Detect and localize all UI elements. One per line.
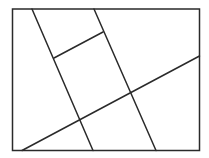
long-diagonal-line [22, 56, 200, 151]
right-slanted-line [94, 9, 156, 151]
geometry-diagram [0, 0, 209, 158]
line-segments [22, 9, 200, 151]
short-cross-segment [54, 32, 103, 58]
